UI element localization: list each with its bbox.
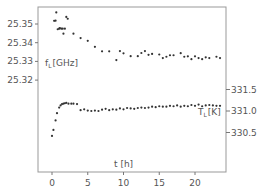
data-point (133, 108, 135, 110)
data-point (197, 57, 199, 59)
data-point (172, 54, 174, 56)
x-tick-label: 10 (118, 178, 130, 188)
data-point (158, 53, 160, 55)
data-point (130, 107, 132, 109)
data-point (64, 28, 66, 30)
data-point (137, 55, 139, 57)
data-point (169, 54, 171, 56)
data-point (119, 50, 121, 52)
data-point (101, 109, 103, 111)
data-point (54, 20, 56, 22)
data-point (172, 105, 174, 107)
data-point (112, 108, 114, 110)
left-y-axis: 25.3525.3425.3325.32 (7, 19, 38, 85)
data-point (155, 106, 157, 108)
data-point (215, 105, 217, 107)
data-point (215, 56, 217, 58)
left-y-axis-label: fL[GHz] (45, 58, 78, 69)
data-point (115, 59, 117, 61)
right-tick-label: 331.0 (231, 106, 257, 116)
data-point (140, 106, 142, 108)
data-point (122, 108, 124, 110)
data-point (119, 107, 121, 109)
data-point (147, 54, 149, 56)
data-point (162, 57, 164, 59)
data-point (201, 105, 203, 107)
right-y-axis-label: TL[K] (197, 107, 221, 118)
data-point (140, 52, 142, 54)
x-axis-label: t [h] (114, 159, 133, 169)
data-point (219, 105, 221, 107)
right-y-axis: 331.5331.0330.5 (226, 85, 257, 138)
plot-frame (38, 7, 226, 172)
data-point (162, 106, 164, 108)
data-point (55, 11, 57, 13)
data-point (187, 55, 189, 57)
x-tick-label: 20 (189, 178, 201, 188)
data-point (80, 109, 82, 111)
data-point (190, 104, 192, 106)
data-point (147, 106, 149, 108)
data-point (72, 103, 74, 105)
left-tick-label: 25.32 (7, 75, 33, 85)
series-temperature-points (51, 102, 221, 137)
data-point (151, 106, 153, 108)
data-point (76, 103, 78, 105)
data-point (52, 129, 54, 131)
data-point (151, 53, 153, 55)
data-point (126, 107, 128, 109)
data-point (101, 50, 103, 52)
data-point (56, 112, 58, 114)
right-tick-label: 331.5 (231, 85, 257, 95)
data-point (194, 55, 196, 57)
data-point (187, 105, 189, 107)
data-point (87, 109, 89, 111)
data-point (105, 108, 107, 110)
data-point (122, 52, 124, 54)
data-point (90, 110, 92, 112)
data-point (72, 33, 74, 35)
data-point (205, 56, 207, 58)
data-point (108, 109, 110, 111)
data-point (58, 106, 60, 108)
data-point (165, 56, 167, 58)
data-point (67, 18, 69, 20)
x-axis: 05101520 (49, 172, 201, 188)
dual-axis-scatter-chart: 25.3525.3425.3325.32 331.5331.0330.5 051… (0, 0, 260, 194)
data-point (180, 106, 182, 108)
left-tick-label: 25.34 (7, 38, 33, 48)
left-tick-label: 25.33 (7, 56, 33, 66)
data-point (67, 103, 69, 105)
data-point (94, 109, 96, 111)
data-point (197, 103, 199, 105)
data-point (165, 106, 167, 108)
data-point (108, 50, 110, 52)
data-point (62, 33, 64, 35)
data-point (183, 56, 185, 58)
data-point (158, 105, 160, 107)
data-point (183, 105, 185, 107)
data-point (70, 103, 72, 105)
series-frequency-points (53, 11, 221, 61)
data-point (144, 50, 146, 52)
data-point (115, 109, 117, 111)
data-point (87, 40, 89, 42)
data-point (208, 104, 210, 106)
data-point (94, 46, 96, 48)
right-tick-label: 330.5 (231, 128, 257, 138)
data-point (137, 107, 139, 109)
data-point (205, 104, 207, 106)
data-point (176, 104, 178, 106)
data-point (65, 102, 67, 104)
left-tick-label: 25.35 (7, 19, 33, 29)
data-point (51, 135, 53, 137)
data-point (180, 52, 182, 54)
data-point (97, 110, 99, 112)
data-point (130, 55, 132, 57)
data-point (83, 108, 85, 110)
data-point (169, 105, 171, 107)
data-point (144, 107, 146, 109)
data-point (212, 104, 214, 106)
data-point (190, 58, 192, 60)
x-tick-label: 0 (49, 178, 55, 188)
